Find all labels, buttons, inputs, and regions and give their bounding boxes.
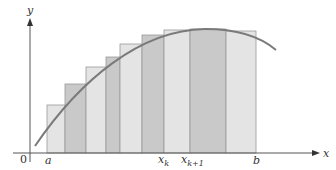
riemann-rectangle-8	[190, 29, 226, 153]
tick-label-xk1: xk+1	[181, 153, 204, 168]
riemann-rectangle-4	[106, 57, 120, 153]
x-axis-arrow-icon	[312, 150, 320, 156]
x-axis-label: x	[323, 147, 330, 160]
tick-label-xk: xk	[158, 153, 169, 168]
riemann-rectangle-7	[164, 30, 190, 153]
riemann-rectangle-3	[86, 67, 106, 153]
y-axis-label: y	[26, 4, 34, 17]
riemann-rectangle-1	[47, 105, 65, 153]
origin-label: 0	[20, 153, 27, 166]
riemann-sum-diagram: y x 0 a xk xk+1 b	[0, 0, 336, 170]
riemann-rectangle-9	[226, 31, 256, 153]
riemann-rectangle-6	[142, 35, 164, 153]
riemann-rectangle-5	[120, 44, 142, 153]
tick-label-b: b	[253, 154, 260, 167]
riemann-rectangles	[47, 29, 256, 153]
y-axis-arrow-icon	[27, 18, 33, 26]
tick-label-a: a	[45, 154, 52, 167]
